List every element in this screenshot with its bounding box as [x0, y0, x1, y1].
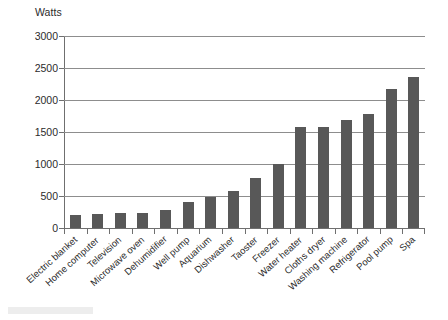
bar [273, 164, 284, 228]
bar [228, 191, 239, 228]
bar [92, 214, 103, 228]
y-tick-label-2500: 2500 [35, 62, 58, 74]
plot-area [64, 36, 425, 228]
bar [363, 114, 374, 228]
bar [318, 127, 329, 228]
bar [250, 178, 261, 228]
y-tick-mark-1000 [59, 164, 64, 165]
bar [408, 77, 419, 228]
gridline-2500 [64, 68, 425, 69]
x-label-spa: Spa [397, 234, 417, 253]
bar [386, 89, 397, 228]
y-tick-label-500: 500 [40, 190, 58, 202]
bar [137, 213, 148, 228]
y-tick-mark-2500 [59, 68, 64, 69]
y-tick-label-1000: 1000 [35, 158, 58, 170]
watts-bar-chart: Watts 050010001500200025003000 Electric … [0, 0, 448, 320]
bar [341, 120, 352, 228]
y-tick-label-3000: 3000 [35, 30, 58, 42]
bar [70, 215, 81, 228]
scan-artifact [8, 307, 93, 314]
y-tick-mark-1500 [59, 132, 64, 133]
bar [295, 127, 306, 228]
y-tick-mark-2000 [59, 100, 64, 101]
gridline-3000 [64, 36, 425, 37]
bar [115, 213, 126, 228]
y-tick-mark-3000 [59, 36, 64, 37]
y-tick-label-1500: 1500 [35, 126, 58, 138]
y-axis-title: Watts [35, 6, 62, 18]
gridline-2000 [64, 100, 425, 101]
bar [160, 210, 171, 228]
y-tick-mark-500 [59, 196, 64, 197]
bar [205, 197, 216, 228]
y-tick-label-2000: 2000 [35, 94, 58, 106]
bar [183, 202, 194, 228]
y-tick-mark-0 [59, 228, 64, 229]
y-axis-tick-labels: 050010001500200025003000 [0, 36, 58, 228]
